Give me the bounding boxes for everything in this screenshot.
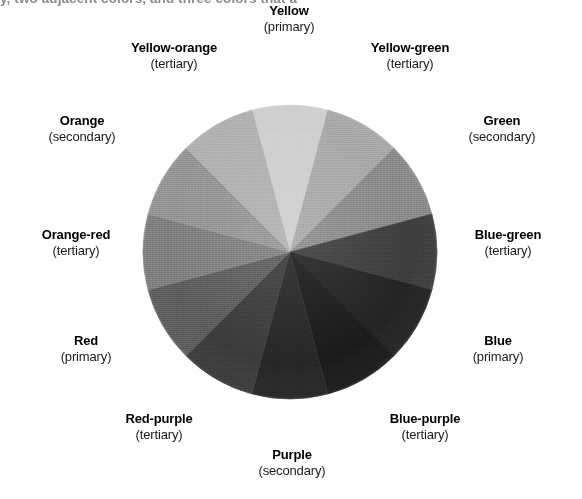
label-blue-green-kind: (tertiary) [438, 244, 578, 259]
label-orange: Orange (secondary) [12, 114, 152, 144]
label-purple: Purple (secondary) [216, 448, 368, 478]
label-purple-name: Purple [216, 448, 368, 463]
label-yellow-green: Yellow-green (tertiary) [337, 41, 483, 71]
label-yellow-green-kind: (tertiary) [337, 57, 483, 72]
label-yellow: Yellow (primary) [229, 4, 349, 34]
label-green-name: Green [432, 114, 572, 129]
label-yellow-orange-name: Yellow-orange [101, 41, 247, 56]
label-orange-red: Orange-red (tertiary) [6, 228, 146, 258]
label-red-kind: (primary) [26, 350, 146, 365]
label-blue-green: Blue-green (tertiary) [438, 228, 578, 258]
label-green: Green (secondary) [432, 114, 572, 144]
color-wheel [142, 104, 438, 400]
label-blue-purple: Blue-purple (tertiary) [352, 412, 498, 442]
label-orange-name: Orange [12, 114, 152, 129]
label-red-purple-name: Red-purple [86, 412, 232, 427]
label-blue: Blue (primary) [438, 334, 558, 364]
wheel-shading [143, 105, 437, 399]
label-red-purple: Red-purple (tertiary) [86, 412, 232, 442]
label-blue-purple-name: Blue-purple [352, 412, 498, 427]
label-purple-kind: (secondary) [216, 464, 368, 479]
label-red-purple-kind: (tertiary) [86, 428, 232, 443]
label-blue-green-name: Blue-green [438, 228, 578, 243]
label-red: Red (primary) [26, 334, 146, 364]
label-blue-purple-kind: (tertiary) [352, 428, 498, 443]
label-blue-name: Blue [438, 334, 558, 349]
label-orange-red-name: Orange-red [6, 228, 146, 243]
label-yellow-orange-kind: (tertiary) [101, 57, 247, 72]
label-red-name: Red [26, 334, 146, 349]
label-yellow-name: Yellow [229, 4, 349, 19]
label-yellow-kind: (primary) [229, 20, 349, 35]
color-wheel-svg [142, 104, 438, 400]
label-yellow-green-name: Yellow-green [337, 41, 483, 56]
label-orange-kind: (secondary) [12, 130, 152, 145]
label-green-kind: (secondary) [432, 130, 572, 145]
color-wheel-figure: y, two adjacent colors, and three colors… [0, 0, 582, 499]
label-yellow-orange: Yellow-orange (tertiary) [101, 41, 247, 71]
label-blue-kind: (primary) [438, 350, 558, 365]
label-orange-red-kind: (tertiary) [6, 244, 146, 259]
